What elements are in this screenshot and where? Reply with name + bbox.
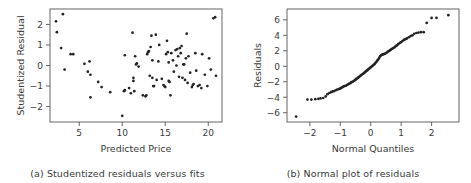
y-tick-label-0: −2	[30, 102, 43, 112]
data-point	[164, 86, 167, 89]
data-point	[166, 40, 169, 43]
x-tick-label-1: −1	[334, 128, 347, 138]
data-point	[153, 85, 156, 88]
y-axis-title: Residuals	[252, 43, 263, 88]
data-point	[132, 80, 135, 83]
data-point	[203, 73, 206, 76]
data-point	[89, 96, 92, 99]
data-point	[194, 52, 197, 55]
data-point	[176, 48, 179, 51]
data-point	[137, 65, 140, 68]
data-point	[157, 60, 160, 63]
data-point	[215, 74, 218, 77]
data-point	[154, 33, 157, 36]
data-point	[60, 47, 63, 50]
data-point	[425, 22, 428, 25]
data-point	[183, 63, 186, 66]
x-tick-label-0: 5	[76, 128, 82, 138]
data-point	[97, 81, 100, 84]
data-point	[168, 81, 171, 84]
data-point	[447, 14, 450, 17]
data-point	[195, 69, 198, 72]
data-point	[167, 61, 170, 64]
y-tick-label-4: 2	[37, 20, 43, 30]
y-tick-label-1: −1	[30, 81, 43, 91]
y-tick-label-3: 0	[274, 62, 280, 72]
x-tick-label-0: −2	[303, 128, 316, 138]
data-point	[148, 74, 151, 77]
x-axis-title: Normal Quantiles	[332, 143, 415, 154]
data-point	[192, 83, 195, 86]
data-point	[55, 20, 58, 23]
data-point	[166, 51, 169, 54]
data-point	[185, 57, 188, 60]
data-point	[430, 17, 433, 20]
data-point	[208, 57, 211, 60]
data-point	[142, 94, 145, 97]
scatter-plot-a: 5101520−2−1012Predicted PriceStudentized…	[0, 0, 235, 155]
data-point	[133, 90, 136, 93]
x-tick-label-2: 15	[160, 128, 171, 138]
data-point	[100, 86, 103, 89]
data-point	[420, 31, 423, 34]
x-tick-label-4: 2	[429, 128, 435, 138]
y-axis-title: Studentized Residual	[15, 15, 26, 115]
data-point	[169, 94, 172, 97]
x-tick-label-3: 1	[398, 128, 404, 138]
data-point	[324, 95, 327, 98]
data-point	[175, 64, 178, 67]
data-point	[83, 63, 86, 66]
data-point	[63, 68, 66, 71]
y-tick-label-2: 0	[37, 61, 43, 71]
data-point	[132, 76, 135, 79]
data-point	[184, 79, 187, 82]
y-tick-label-0: −6	[267, 108, 281, 118]
data-point	[109, 91, 112, 94]
data-point	[160, 78, 163, 81]
data-point	[150, 34, 153, 37]
data-point	[155, 79, 158, 82]
caption-panel-b: (b) Normal plot of residuals	[235, 168, 471, 179]
data-point	[148, 50, 151, 53]
data-point	[56, 31, 59, 34]
data-point	[180, 45, 183, 48]
data-point	[198, 84, 201, 87]
data-point	[186, 82, 189, 85]
y-tick-label-4: 2	[274, 46, 280, 56]
data-point	[62, 13, 65, 16]
data-point	[206, 85, 209, 88]
data-point	[69, 53, 72, 56]
data-point	[189, 71, 192, 74]
data-point	[129, 92, 132, 95]
y-tick-label-3: 1	[37, 40, 43, 50]
data-point	[185, 32, 188, 35]
data-point	[178, 75, 181, 78]
data-point	[322, 97, 325, 100]
x-tick-label-2: 0	[368, 128, 374, 138]
panel-normal-plot: −2−1012−6−4−20246Normal QuantilesResidua…	[235, 0, 471, 183]
data-point	[306, 98, 309, 101]
data-point	[214, 16, 217, 19]
data-point	[145, 94, 148, 97]
data-point	[295, 115, 298, 118]
data-point	[177, 55, 180, 58]
data-point	[172, 59, 175, 62]
data-point	[201, 53, 204, 56]
caption-panel-a: (a) Studentized residuals versus fits	[0, 168, 235, 179]
x-tick-label-3: 20	[203, 128, 215, 138]
data-point	[179, 52, 182, 55]
data-point	[179, 47, 182, 50]
data-point	[121, 114, 124, 117]
data-point	[209, 68, 212, 71]
x-tick-label-1: 10	[117, 128, 129, 138]
data-point	[128, 87, 131, 90]
data-point	[435, 17, 438, 20]
data-point	[151, 59, 154, 62]
data-point	[151, 76, 154, 79]
data-point	[86, 70, 89, 73]
data-point	[72, 53, 75, 56]
data-point	[200, 87, 203, 90]
data-point	[172, 70, 175, 73]
y-tick-label-6: 6	[274, 15, 280, 25]
scatter-plot-b: −2−1012−6−4−20246Normal QuantilesResidua…	[235, 0, 471, 155]
